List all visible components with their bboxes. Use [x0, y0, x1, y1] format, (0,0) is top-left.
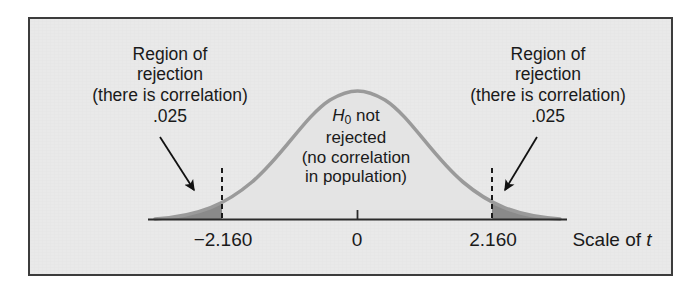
null-hypothesis-line: H0 not — [268, 106, 444, 128]
left-alpha-value: .025 — [54, 106, 286, 126]
tick-label-positive-critical: 2.160 — [452, 229, 534, 251]
left-alpha-arrow — [160, 137, 194, 190]
right-alpha-arrow — [505, 137, 537, 190]
left-rejection-label: Region of rejection (there is correlatio… — [54, 44, 286, 127]
left-label-line-1: Region of — [54, 44, 286, 64]
axis-title-prefix: Scale of — [572, 229, 646, 250]
left-label-line-2: rejection — [54, 64, 286, 84]
right-label-line-3: (there is correlation) — [432, 85, 664, 105]
figure-page: Region of rejection (there is correlatio… — [0, 0, 691, 292]
h-symbol: H — [332, 106, 344, 125]
axis-title-variable: t — [646, 229, 651, 250]
tick-label-negative-critical: −2.160 — [176, 229, 270, 251]
center-label-line-3: (no correlation — [268, 148, 444, 168]
right-label-line-2: rejection — [432, 64, 664, 84]
x-axis-title: Scale of t — [556, 229, 668, 251]
right-alpha-value: .025 — [432, 106, 664, 126]
left-label-line-3: (there is correlation) — [54, 85, 286, 105]
center-label-line-2: rejected — [268, 128, 444, 148]
center-acceptance-label: H0 not rejected (no correlation in popul… — [268, 106, 444, 187]
not-text: not — [351, 106, 379, 125]
tick-label-zero: 0 — [330, 229, 384, 251]
right-label-line-1: Region of — [432, 44, 664, 64]
right-rejection-label: Region of rejection (there is correlatio… — [432, 44, 664, 127]
center-label-line-4: in population) — [268, 167, 444, 187]
